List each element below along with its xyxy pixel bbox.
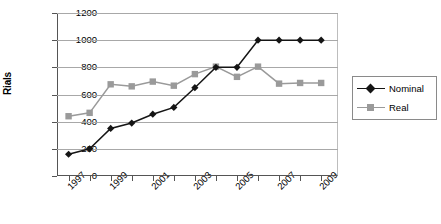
legend-swatch-real (357, 102, 385, 113)
gridline (57, 13, 338, 14)
x-tick-mark (174, 176, 175, 181)
gridline (57, 40, 338, 41)
y-tick-mark (52, 176, 57, 177)
x-tick-mark (258, 176, 259, 181)
x-tick-mark (90, 176, 91, 181)
legend-label-real: Real (389, 102, 409, 113)
gridline (57, 67, 338, 68)
legend-label-nominal: Nominal (389, 83, 424, 94)
line-chart: Rials 020040060080010001200 199719992001… (0, 0, 441, 224)
y-axis-title: Rials (2, 72, 13, 95)
gridline (57, 122, 338, 123)
x-tick-mark (216, 176, 217, 181)
x-tick-mark (132, 176, 133, 181)
plot-area (57, 13, 338, 176)
gridline (57, 149, 338, 150)
chart-legend: Nominal Real (352, 76, 437, 120)
gridline (57, 95, 338, 96)
legend-swatch-nominal (357, 83, 385, 94)
x-tick-mark (300, 176, 301, 181)
legend-item-real: Real (357, 100, 409, 114)
legend-item-nominal: Nominal (357, 81, 424, 95)
